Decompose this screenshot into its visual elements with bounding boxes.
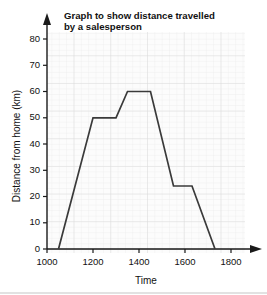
bottom-divider [0,292,267,294]
y-tick-label: 10 [29,216,40,227]
x-axis-tick-labels: 1000 1200 1400 1600 1800 [36,256,241,267]
x-axis-arrowhead [250,245,262,253]
chart-title-line-1: Graph to show distance travelled [64,10,215,21]
y-axis-arrowhead [43,13,51,25]
y-tick-label: 0 [35,243,40,254]
y-tick-label: 70 [29,59,40,70]
y-tick-label: 30 [29,164,40,175]
y-tick-label: 20 [29,190,40,201]
y-tick-label: 50 [29,111,40,122]
x-tick-label: 1200 [82,256,103,267]
chart-figure: 0 10 20 30 40 50 60 70 80 1000 1200 1400… [0,0,267,295]
grid-major [47,32,245,253]
chart-title-line-2: by a salesperson [64,21,142,32]
x-tick-label: 1800 [220,256,241,267]
y-axis-label: Distance from home (km) [11,90,22,202]
y-tick-label: 80 [29,33,40,44]
x-tick-label: 1400 [128,256,149,267]
x-axis-label: Time [135,275,157,286]
x-tick-label: 1600 [174,256,195,267]
y-axis-tick-labels: 0 10 20 30 40 50 60 70 80 [29,33,40,254]
x-tick-label: 1000 [36,256,57,267]
y-tick-label: 60 [29,85,40,96]
distance-time-line-chart: 0 10 20 30 40 50 60 70 80 1000 1200 1400… [0,0,267,295]
y-tick-label: 40 [29,138,40,149]
